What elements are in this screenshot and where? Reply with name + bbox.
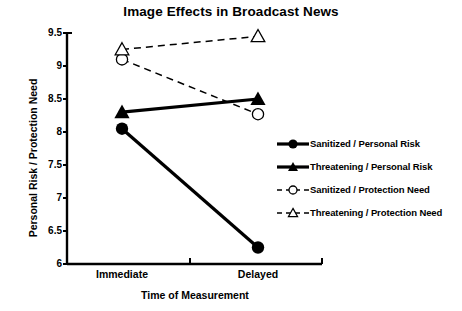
data-point-marker xyxy=(252,109,263,120)
legend-item-label: Threatening / Personal Risk xyxy=(310,161,432,172)
legend-item[interactable]: Threatening / Protection Need xyxy=(276,201,460,224)
y-axis-tick-labels: 66.577.588.599.5 xyxy=(28,0,62,311)
legend-item-label: Sanitized / Protection Need xyxy=(310,184,430,195)
series-line xyxy=(122,36,258,49)
data-point-marker xyxy=(116,123,128,135)
legend-marker-open-circle-icon xyxy=(276,182,310,198)
y-axis-tick-label: 9 xyxy=(28,61,62,71)
y-axis-tick-label: 6.5 xyxy=(28,226,62,236)
legend-marker-open-triangle-icon xyxy=(276,205,310,221)
y-axis-tick-label: 6 xyxy=(28,259,62,269)
x-axis-tick-label: Delayed xyxy=(198,268,318,280)
y-axis-tick-label: 9.5 xyxy=(28,28,62,38)
legend-marker-filled-triangle-icon xyxy=(276,159,310,175)
y-axis-tick-label: 7.5 xyxy=(28,160,62,170)
legend-item-label: Sanitized / Personal Risk xyxy=(310,138,420,149)
y-axis-tick-label: 8 xyxy=(28,127,62,137)
chart-legend: Sanitized / Personal RiskThreatening / P… xyxy=(276,132,460,224)
legend-item[interactable]: Sanitized / Personal Risk xyxy=(276,132,460,155)
y-axis-tick-label: 7 xyxy=(28,193,62,203)
data-point-marker xyxy=(116,54,127,65)
chart-figure: Image Effects in Broadcast News Personal… xyxy=(0,0,462,311)
y-axis-tick-label: 8.5 xyxy=(28,94,62,104)
legend-marker-filled-circle-icon xyxy=(276,136,310,152)
legend-item-label: Threatening / Protection Need xyxy=(310,207,442,218)
data-point-marker xyxy=(251,30,265,42)
data-point-marker xyxy=(252,241,264,253)
x-axis-title: Time of Measurement xyxy=(70,289,320,301)
legend-item[interactable]: Sanitized / Protection Need xyxy=(276,178,460,201)
legend-item[interactable]: Threatening / Personal Risk xyxy=(276,155,460,178)
chart-title: Image Effects in Broadcast News xyxy=(0,4,462,19)
x-axis-tick-label: Immediate xyxy=(62,268,182,280)
series-line xyxy=(122,129,258,248)
